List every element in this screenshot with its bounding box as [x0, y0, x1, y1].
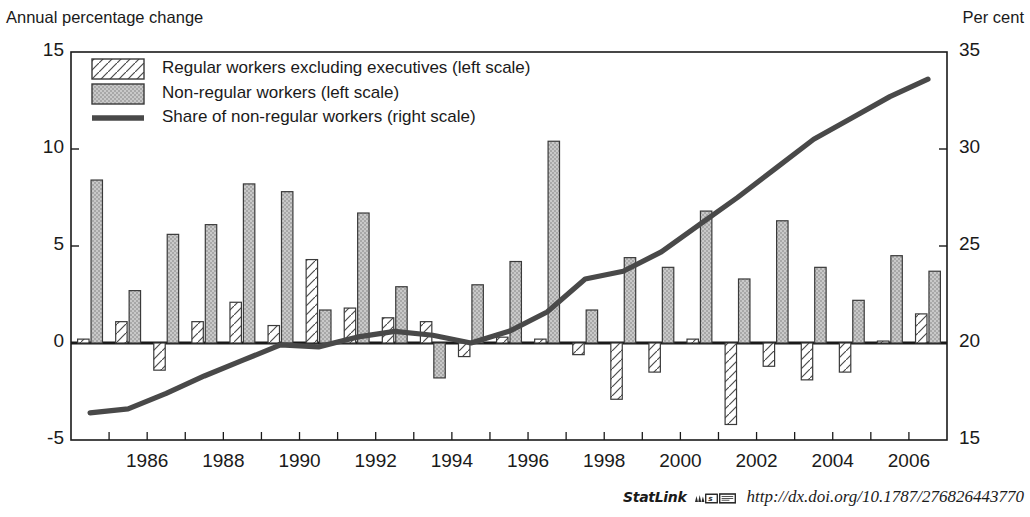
statlink-url[interactable]: http://dx.doi.org/10.1787/276826443770 — [746, 487, 1024, 506]
x-axis-tick-2002: 2002 — [717, 450, 797, 472]
bar-regular-1987 — [154, 343, 165, 370]
bar-nonregular-1995 — [472, 285, 483, 343]
bar-nonregular-2003 — [777, 221, 788, 343]
x-axis-tick-1998: 1998 — [564, 450, 644, 472]
bar-nonregular-2005 — [853, 300, 864, 343]
bar-regular-1996 — [497, 337, 508, 343]
bar-regular-1998 — [573, 343, 584, 355]
bar-nonregular-1988 — [205, 225, 216, 343]
bar-regular-2003 — [763, 343, 774, 366]
bar-regular-1991 — [306, 260, 317, 343]
y-axis-tick-left-5: 5 — [4, 233, 64, 255]
bar-regular-2005 — [839, 343, 850, 372]
bar-nonregular-1994 — [434, 343, 445, 378]
x-axis-tick-1990: 1990 — [260, 450, 340, 472]
bar-regular-1986 — [116, 322, 127, 343]
bar-nonregular-1998 — [586, 310, 597, 343]
bar-regular-2006 — [877, 341, 888, 343]
x-axis-tick-1996: 1996 — [488, 450, 568, 472]
y-axis-tick-left-15: 15 — [4, 39, 64, 61]
y-axis-tick-right-30: 30 — [959, 136, 1019, 158]
bar-regular-2000 — [649, 343, 660, 372]
bar-nonregular-2001 — [700, 211, 711, 343]
x-axis-tick-1994: 1994 — [412, 450, 492, 472]
bar-nonregular-2007 — [929, 271, 940, 343]
hatched-box-swatch — [92, 59, 144, 79]
bar-regular-1997 — [535, 339, 546, 343]
bar-regular-1999 — [611, 343, 622, 399]
bar-regular-1990 — [268, 326, 279, 343]
statlink-label: StatLink — [623, 489, 687, 505]
bar-nonregular-1990 — [281, 192, 292, 343]
bar-nonregular-1986 — [129, 291, 140, 343]
bar-regular-2004 — [801, 343, 812, 380]
y-axis-tick-right-35: 35 — [959, 39, 1019, 61]
bar-nonregular-1989 — [243, 184, 254, 343]
bar-regular-1988 — [192, 322, 203, 343]
bar-regular-1989 — [230, 302, 241, 343]
bar-regular-1985 — [78, 339, 89, 343]
x-axis-tick-2006: 2006 — [869, 450, 949, 472]
bar-nonregular-1992 — [358, 213, 369, 343]
x-axis-tick-2000: 2000 — [640, 450, 720, 472]
y-axis-tick-right-25: 25 — [959, 233, 1019, 255]
svg-text:s: s — [709, 494, 714, 503]
legend-item-2: Non-regular workers (left scale) — [162, 83, 399, 103]
legend-item-1: Regular workers excluding executives (le… — [162, 58, 531, 78]
bar-nonregular-2000 — [662, 267, 673, 343]
y-axis-tick-right-20: 20 — [959, 330, 1019, 352]
y-axis-tick-left-0: 0 — [4, 330, 64, 352]
bar-regular-2002 — [725, 343, 736, 424]
y-axis-tick-left-10: 10 — [4, 136, 64, 158]
bar-nonregular-2002 — [739, 279, 750, 343]
x-axis-tick-2004: 2004 — [793, 450, 873, 472]
bar-nonregular-2004 — [815, 267, 826, 343]
x-axis-tick-1992: 1992 — [336, 450, 416, 472]
bar-nonregular-1991 — [320, 310, 331, 343]
y-axis-tick-right-15: 15 — [959, 427, 1019, 449]
statlink-icon: s — [695, 490, 739, 507]
statlink-footer: StatLink s http://dx.doi.org/10.1787/276… — [0, 487, 1024, 507]
chart-figure: Annual percentage change Per cent 151050… — [0, 0, 1030, 517]
x-axis-tick-1986: 1986 — [107, 450, 187, 472]
bar-nonregular-2006 — [891, 256, 902, 343]
bar-nonregular-1985 — [91, 180, 102, 343]
legend-item-3: Share of non-regular workers (right scal… — [162, 107, 476, 127]
right-axis-title: Per cent — [963, 8, 1024, 27]
left-axis-title: Annual percentage change — [6, 8, 203, 27]
bar-regular-2001 — [687, 339, 698, 343]
y-axis-tick-left--5: -5 — [4, 427, 64, 449]
x-axis-tick-1988: 1988 — [183, 450, 263, 472]
bar-regular-2007 — [916, 314, 927, 343]
stippled-box-swatch — [92, 84, 144, 104]
bar-nonregular-1987 — [167, 234, 178, 343]
